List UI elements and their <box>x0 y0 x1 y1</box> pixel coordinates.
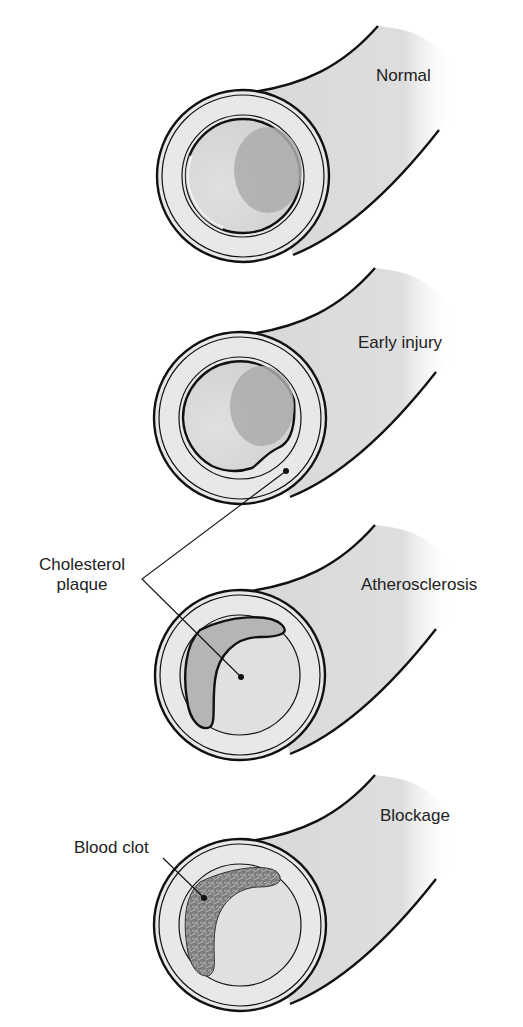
callout-cholesterol-plaque: Cholesterol plaque <box>26 555 138 594</box>
lumen-shadow <box>234 127 302 213</box>
label-early-injury: Early injury <box>358 333 442 353</box>
vessel-normal <box>157 26 458 262</box>
callout-cholesterol-line2: plaque <box>26 575 138 595</box>
diagram-canvas <box>0 0 523 1027</box>
callout-blood-clot: Blood clot <box>74 838 149 858</box>
label-blockage: Blockage <box>380 806 450 826</box>
callout-cholesterol-line1: Cholesterol <box>26 555 138 575</box>
label-normal: Normal <box>376 66 431 86</box>
label-atherosclerosis: Atherosclerosis <box>361 575 477 595</box>
vessel-early-injury <box>154 268 455 504</box>
vessel-atherosclerosis <box>155 525 455 760</box>
artery-disease-diagram: Normal Early injury Atherosclerosis Bloc… <box>0 0 523 1027</box>
